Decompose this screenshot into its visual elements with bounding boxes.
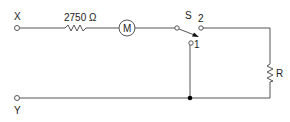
label-switch-2: 2 — [198, 13, 204, 24]
switch-pivot-terminal — [175, 26, 179, 30]
label-shunt-resistor: R — [276, 68, 283, 79]
junction-dot — [188, 96, 193, 101]
label-switch-1: 1 — [194, 39, 200, 50]
switch-arrowhead-icon — [192, 33, 199, 38]
switch-terminal-2 — [199, 26, 203, 30]
label-series-resistor: 2750 Ω — [64, 12, 97, 23]
terminal-x — [15, 26, 20, 31]
label-motor: M — [123, 23, 131, 34]
label-switch: S — [185, 10, 192, 21]
label-y: Y — [14, 105, 21, 116]
circuit-diagram: X Y 2750 Ω M S 2 1 R — [0, 0, 290, 122]
label-x: X — [14, 11, 21, 22]
series-resistor-icon — [65, 25, 86, 31]
terminal-y — [15, 96, 20, 101]
shunt-resistor-icon — [267, 64, 273, 82]
switch-terminal-1 — [189, 41, 193, 45]
